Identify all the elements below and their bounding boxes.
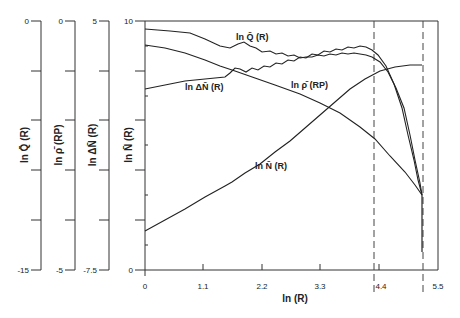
axis-ln-n-bottom: 0 xyxy=(129,266,134,275)
chart: 0 -15 ln Q̄ (R) 0 -5 ln ρ̄ (RP) 5 -7.5 l… xyxy=(0,0,460,318)
label-ln-dn: ln ΔN̄ (R) xyxy=(185,82,223,92)
axis-ln-q: 0 -15 ln Q̄ (R) xyxy=(17,17,41,275)
label-ln-n: ln N̄ (R) xyxy=(255,161,287,171)
curve-ln-dn xyxy=(145,46,422,195)
axis-ln-dn-label: ln ΔN̄ (R) xyxy=(87,124,98,167)
x-tick-4: 4.4 xyxy=(375,282,387,291)
axis-ln-rho-top: 0 xyxy=(59,17,64,26)
axis-ln-rho-label: ln ρ̄ (RP) xyxy=(53,124,64,165)
axis-ln-q-label: ln Q̄ (R) xyxy=(19,127,30,163)
curves xyxy=(145,29,422,252)
axis-ln-dn-bottom: -7.5 xyxy=(83,266,97,275)
x-tick-0: 0 xyxy=(143,282,148,291)
axis-ln-rho-bottom: -5 xyxy=(56,266,64,275)
label-ln-rho: ln ρ̄ (RP) xyxy=(291,80,328,90)
x-tick-3: 3.3 xyxy=(314,282,326,291)
curve-ln-rho xyxy=(145,45,422,195)
x-tick-2: 2.2 xyxy=(256,282,268,291)
axis-ln-n-top: 10 xyxy=(124,17,133,26)
plot-frame xyxy=(145,21,438,270)
axis-ln-q-top: 0 xyxy=(25,17,30,26)
axis-ln-dn-top: 5 xyxy=(93,17,98,26)
x-axis-label: ln (R) xyxy=(282,293,308,304)
axis-ln-dn: 5 -7.5 ln ΔN̄ (R) xyxy=(83,17,109,275)
x-tick-1: 1.1 xyxy=(197,282,209,291)
dashed-lines xyxy=(374,21,423,292)
axis-ln-rho: 0 -5 ln ρ̄ (RP) xyxy=(53,17,75,275)
axis-ln-n-label: ln N̄ (R) xyxy=(123,127,134,163)
axis-ln-q-bottom: -15 xyxy=(17,266,29,275)
label-ln-q: ln Q̄ (R) xyxy=(236,32,269,42)
x-tick-5: 5.5 xyxy=(432,282,444,291)
axis-ln-n: 10 0 ln N̄ (R) xyxy=(123,17,148,276)
annotations: ln Q̄ (R) ln ΔN̄ (R) ln ρ̄ (RP) ln N̄ (R… xyxy=(185,32,328,171)
